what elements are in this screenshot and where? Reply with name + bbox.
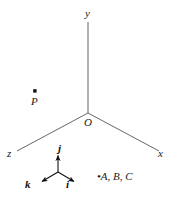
point-label-p: P	[31, 96, 38, 107]
point-p-dot-marker	[33, 89, 36, 92]
x-axis-line	[88, 113, 159, 151]
axis-lines	[17, 22, 159, 151]
point-group-text: A, B, C	[101, 170, 133, 182]
axis-label-z: z	[7, 148, 11, 159]
vector-k-arrow	[42, 172, 58, 182]
axis-label-x: x	[158, 148, 163, 159]
origin-label: O	[84, 117, 92, 128]
unit-vector-label-j: j	[58, 143, 61, 154]
unit-vector-triad	[42, 156, 74, 182]
point-group-label-abc: •A, B, C	[97, 171, 133, 182]
diagram-canvas	[0, 0, 171, 198]
unit-vector-label-k: k	[25, 179, 31, 190]
z-axis-line	[17, 113, 88, 151]
coordinate-axes-figure: y x z O P i j k •A, B, C	[0, 0, 171, 198]
unit-vector-label-i: i	[66, 179, 69, 190]
axis-label-y: y	[85, 8, 90, 19]
point-markers	[33, 89, 36, 92]
